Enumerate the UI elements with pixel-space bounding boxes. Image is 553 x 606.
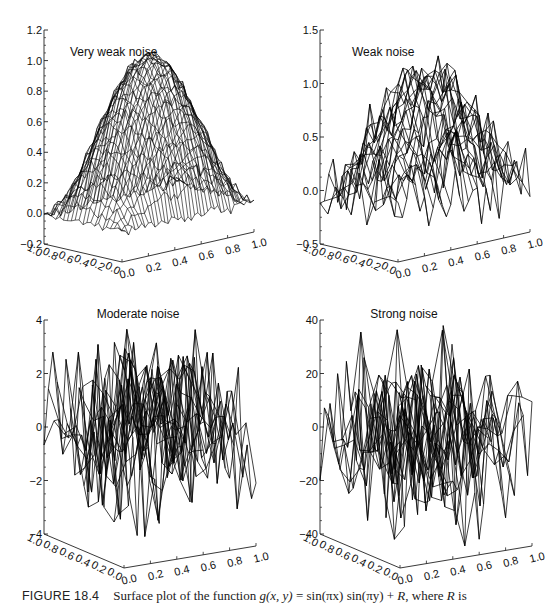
x-tick-label: 0.6	[473, 247, 491, 262]
x-tick-label: 1.0	[252, 549, 270, 564]
z-tick-label: 2	[36, 368, 42, 380]
z-tick-label: 0.6	[27, 116, 42, 128]
x-tick-label: 0.0	[120, 571, 138, 586]
caption-prefix: Surface plot of the function	[113, 588, 259, 603]
z-tick-label: 1.5	[303, 24, 318, 36]
z-tick-label: 0	[36, 421, 42, 433]
caption-suffix: , where	[405, 588, 447, 603]
surface-mesh	[44, 329, 256, 536]
panel-title: Strong noise	[370, 307, 438, 321]
surface-mesh	[44, 52, 254, 235]
caption-r2: R	[447, 588, 455, 603]
z-tick-label: 20	[306, 368, 318, 380]
x-tick-label: 0.4	[171, 253, 189, 268]
z-tick-label: 0.4	[27, 146, 42, 158]
z-tick-label: 1.0	[303, 78, 318, 90]
x-tick-label: 0.8	[224, 241, 242, 256]
z-tick-label: 0	[312, 421, 318, 433]
panel-moderate-noise: 420−2−40.00.20.40.60.81.00.00.20.40.60.8…	[26, 307, 270, 587]
x-tick-label: 0.2	[145, 259, 163, 274]
figure-caption: FIGURE 18.4Surface plot of the function …	[22, 588, 553, 606]
x-tick-label: 1.0	[526, 235, 544, 250]
caption-equation: = sin(πx) sin(πy) +	[293, 588, 398, 603]
x-tick-label: 0.8	[502, 554, 520, 569]
surface-mesh	[320, 326, 532, 546]
x-tick-label: 0.0	[396, 571, 414, 586]
x-tick-label: 0.2	[147, 567, 165, 582]
x-tick-label: 1.0	[528, 549, 546, 564]
x-tick-label: 0.8	[500, 241, 518, 256]
panel-title: Very weak noise	[70, 45, 158, 59]
caption-tail: is	[455, 588, 467, 603]
z-tick-label: 0.8	[27, 85, 42, 97]
x-tick-label: 0.2	[421, 259, 439, 274]
z-tick-label: 40	[306, 314, 318, 326]
x-tick-label: 0.6	[475, 558, 493, 573]
panel-strong-noise: 40200−20−400.00.20.40.60.81.00.00.20.40.…	[299, 307, 546, 587]
x-tick-label: 0.6	[197, 247, 215, 262]
x-tick-label: 0.4	[173, 563, 191, 578]
x-tick-label: 0.6	[199, 558, 217, 573]
panel-title: Weak noise	[352, 45, 415, 59]
z-tick-label: 0.0	[27, 207, 42, 219]
z-tick-label: −2	[29, 475, 42, 487]
z-tick-label: 0.5	[303, 131, 318, 143]
surface-mesh	[320, 56, 530, 226]
caption-function: g(x, y)	[259, 588, 292, 603]
z-tick-label: 1.0	[27, 55, 42, 67]
x-tick-label: 0.4	[449, 563, 467, 578]
panel-very-weak-noise: 1.21.00.80.60.40.20.0−0.20.00.20.40.60.8…	[20, 24, 268, 281]
panel-weak-noise: 1.51.00.50.0−0.50.00.20.40.60.81.00.00.2…	[296, 24, 544, 281]
z-tick-label: 4	[36, 314, 42, 326]
x-tick-label: 0.8	[226, 554, 244, 569]
panel-title: Moderate noise	[97, 307, 180, 321]
z-tick-label: 1.2	[27, 24, 42, 36]
figure-surface-plots: 1.21.00.80.60.40.20.0−0.20.00.20.40.60.8…	[0, 0, 553, 606]
x-tick-label: 0.0	[394, 265, 412, 280]
figure-label: FIGURE 18.4	[22, 589, 99, 603]
x-tick-label: 0.0	[118, 265, 136, 280]
z-tick-label: 0.0	[303, 185, 318, 197]
z-tick-label: 0.2	[27, 177, 42, 189]
z-tick-label: −20	[299, 475, 318, 487]
x-tick-label: 0.4	[447, 253, 465, 268]
x-tick-label: 0.2	[423, 567, 441, 582]
x-tick-label: 1.0	[250, 235, 268, 250]
